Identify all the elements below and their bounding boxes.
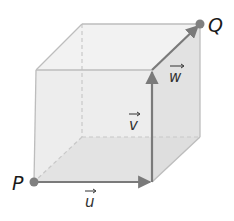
- cube-diagram: P Q u v w: [0, 0, 234, 221]
- label-w: w: [169, 68, 182, 86]
- label-v: v: [129, 116, 139, 134]
- cube-svg: P Q u v w: [0, 0, 234, 221]
- label-p: P: [12, 172, 24, 194]
- label-q: Q: [208, 14, 223, 36]
- point-p: [30, 178, 39, 187]
- point-q: [196, 20, 205, 29]
- label-u: u: [85, 193, 95, 211]
